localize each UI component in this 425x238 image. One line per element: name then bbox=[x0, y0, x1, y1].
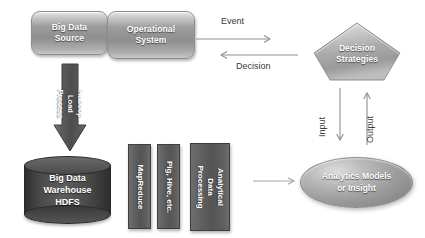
node-analytical-data-processing-label: Analytical Data Processing bbox=[195, 144, 225, 230]
edge-output-label: Output bbox=[365, 116, 375, 143]
node-operational-system[interactable]: Operational System bbox=[107, 11, 195, 59]
edge-event-arrow bbox=[196, 34, 276, 44]
node-hadoop-load-process-label: Hadoop Load Process bbox=[55, 90, 84, 119]
node-analytical-data-processing[interactable]: Analytical Data Processing bbox=[190, 143, 230, 231]
node-big-data-warehouse[interactable]: Big Data Warehouse HDFS bbox=[24, 156, 111, 224]
edge-input-arrow bbox=[335, 88, 345, 145]
node-hadoop-load-process[interactable]: Hadoop Load Process bbox=[53, 63, 87, 153]
node-pig-hive-label: Pig, Hive, etc. bbox=[164, 145, 174, 228]
edge-processing-to-analytics-arrow bbox=[253, 176, 299, 186]
edge-input-label: Input bbox=[317, 117, 327, 137]
edge-decision-arrow bbox=[214, 50, 298, 60]
node-big-data-source[interactable]: Big Data Source bbox=[31, 11, 108, 55]
node-big-data-warehouse-label: Big Data Warehouse HDFS bbox=[24, 156, 111, 224]
node-mapreduce-label: MapReduce bbox=[135, 145, 145, 228]
node-mapreduce[interactable]: MapReduce bbox=[128, 144, 151, 229]
node-analytics-models-label: Analytics Models or Insight bbox=[322, 171, 391, 194]
node-pig-hive[interactable]: Pig, Hive, etc. bbox=[157, 144, 180, 229]
diagram-canvas: Big Data Source Operational System Event… bbox=[0, 0, 425, 238]
node-decision-strategies[interactable]: Decision Strategies bbox=[312, 22, 402, 82]
edge-event-label: Event bbox=[221, 16, 244, 26]
node-analytics-models[interactable]: Analytics Models or Insight bbox=[300, 157, 413, 208]
node-operational-system-label: Operational System bbox=[108, 12, 194, 58]
edge-decision-label: Decision bbox=[236, 61, 271, 71]
node-big-data-source-label: Big Data Source bbox=[32, 12, 107, 54]
